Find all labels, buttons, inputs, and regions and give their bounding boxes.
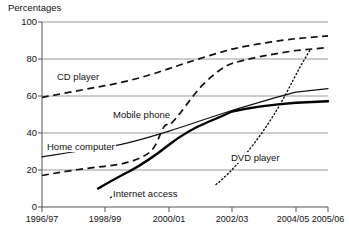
x-tick-label: 2005/06: [298, 214, 349, 224]
x-tick-label: 1998/99: [75, 214, 135, 224]
x-tick-label: 2002/03: [202, 214, 262, 224]
x-tick-label: 2000/01: [139, 214, 199, 224]
x-tick-label: 1996/97: [12, 214, 72, 224]
